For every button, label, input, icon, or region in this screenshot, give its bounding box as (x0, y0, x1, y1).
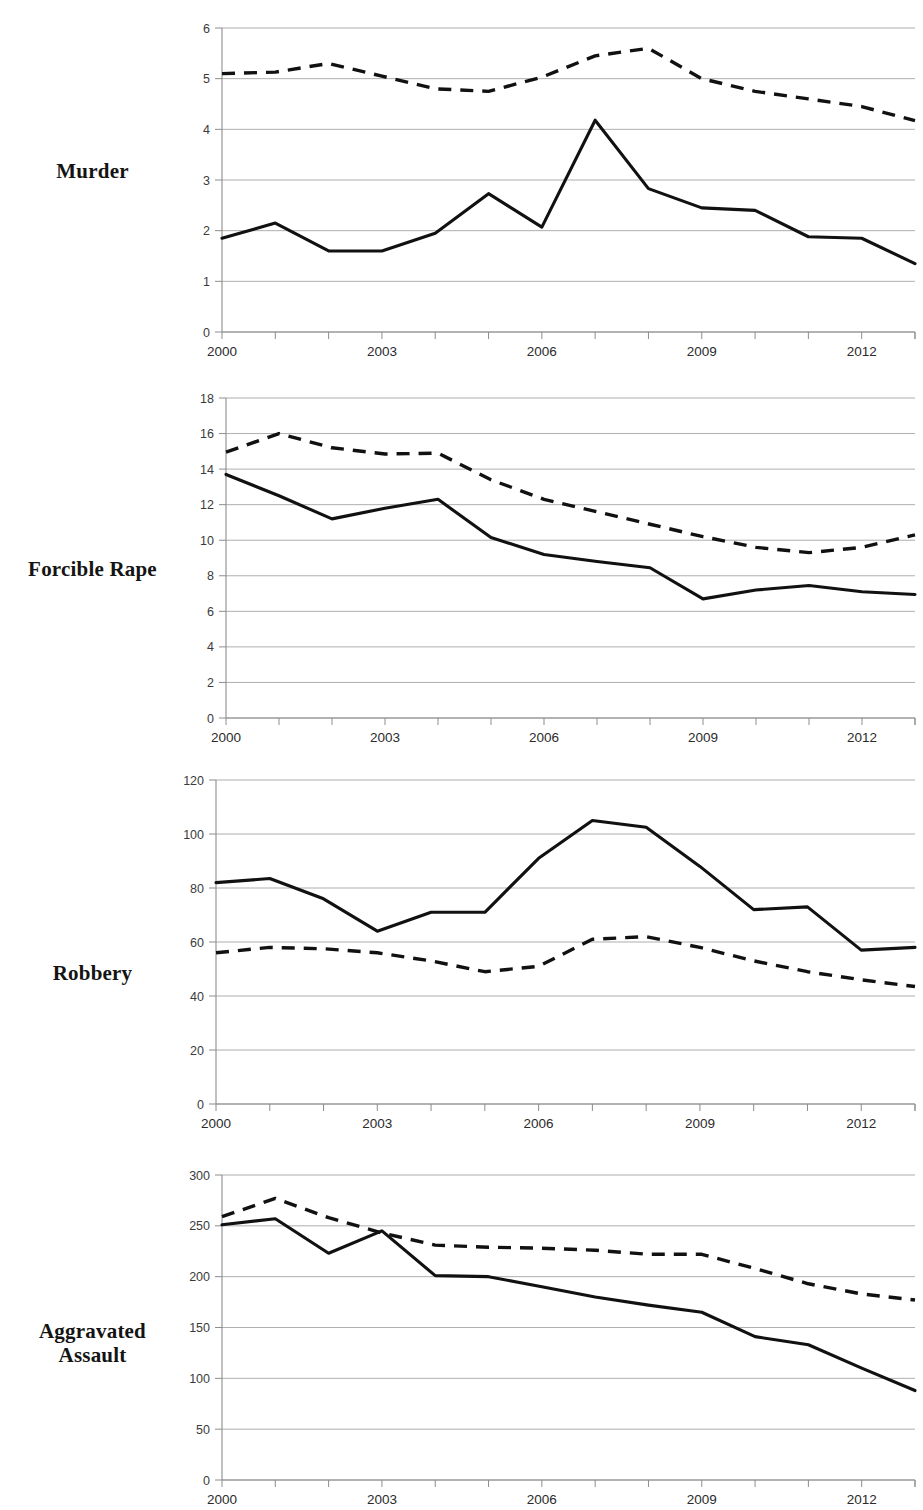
y-axis-tick-label: 120 (183, 774, 204, 788)
y-axis-tick-label: 300 (189, 1169, 210, 1183)
y-axis-tick-label: 3 (203, 174, 210, 188)
series-dashed-line (226, 434, 915, 553)
y-axis-tick-label: 6 (203, 22, 210, 36)
x-axis-tick-label: 2009 (688, 730, 718, 745)
panel-aggravated-assault: Aggravated Assault 050100150200250300200… (0, 1155, 923, 1510)
y-axis-tick-label: 1 (203, 275, 210, 289)
y-axis-tick-label: 200 (189, 1270, 210, 1284)
y-axis-tick-label: 0 (203, 326, 210, 340)
y-axis-tick-label: 0 (197, 1098, 204, 1112)
y-axis-tick-label: 2 (203, 224, 210, 238)
x-axis-tick-label: 2006 (524, 1116, 554, 1131)
x-axis-tick-label: 2012 (846, 1116, 876, 1131)
y-axis-tick-label: 4 (207, 640, 214, 654)
series-dashed-line (222, 48, 915, 120)
x-axis-tick-label: 2003 (370, 730, 400, 745)
x-axis-tick-label: 2012 (847, 1492, 877, 1507)
x-axis-tick-label: 2003 (362, 1116, 392, 1131)
x-axis-tick-label: 2000 (207, 1492, 237, 1507)
y-axis-tick-label: 250 (189, 1219, 210, 1233)
series-dashed-line (222, 1198, 915, 1300)
panel-murder: Murder 012345620002003200620092012 (0, 0, 923, 372)
crime-trend-chart-page: Murder 012345620002003200620092012 Forci… (0, 0, 923, 1510)
x-axis-tick-label: 2012 (847, 730, 877, 745)
y-axis-tick-label: 150 (189, 1321, 210, 1335)
x-axis-tick-label: 2009 (687, 1492, 717, 1507)
x-axis-tick-label: 2000 (207, 344, 237, 359)
y-axis-tick-label: 6 (207, 605, 214, 619)
y-axis-tick-label: 60 (190, 936, 204, 950)
x-axis-tick-label: 2003 (367, 344, 397, 359)
y-axis-tick-label: 0 (203, 1474, 210, 1488)
y-axis-tick-label: 2 (207, 676, 214, 690)
x-axis-tick-label: 2009 (687, 344, 717, 359)
y-axis-tick-label: 14 (200, 463, 214, 477)
y-axis-tick-label: 100 (183, 828, 204, 842)
y-axis-tick-label: 8 (207, 569, 214, 583)
series-solid-line (226, 474, 915, 598)
x-axis-tick-label: 2006 (527, 1492, 557, 1507)
y-axis-tick-label: 4 (203, 123, 210, 137)
series-solid-line (222, 1219, 915, 1391)
y-axis-tick-label: 0 (207, 712, 214, 726)
chart-forcible-rape: 02468101214161820002003200620092012 (0, 380, 923, 770)
series-solid-line (216, 821, 915, 951)
series-solid-line (222, 120, 915, 263)
x-axis-tick-label: 2000 (211, 730, 241, 745)
y-axis-tick-label: 50 (196, 1423, 210, 1437)
y-axis-tick-label: 5 (203, 72, 210, 86)
x-axis-tick-label: 2006 (529, 730, 559, 745)
x-axis-tick-label: 2003 (367, 1492, 397, 1507)
x-axis-tick-label: 2000 (201, 1116, 231, 1131)
chart-robbery: 02040608010012020002003200620092012 (0, 765, 923, 1150)
y-axis-tick-label: 80 (190, 882, 204, 896)
y-axis-tick-label: 40 (190, 990, 204, 1004)
chart-murder: 012345620002003200620092012 (0, 0, 923, 372)
series-dashed-line (216, 937, 915, 987)
x-axis-tick-label: 2012 (847, 344, 877, 359)
panel-robbery: Robbery 02040608010012020002003200620092… (0, 765, 923, 1150)
panel-forcible-rape: Forcible Rape 02468101214161820002003200… (0, 380, 923, 770)
chart-aggravated-assault: 05010015020025030020002003200620092012 (0, 1155, 923, 1510)
y-axis-tick-label: 16 (200, 427, 214, 441)
x-axis-tick-label: 2009 (685, 1116, 715, 1131)
x-axis-tick-label: 2006 (527, 344, 557, 359)
y-axis-tick-label: 20 (190, 1044, 204, 1058)
y-axis-tick-label: 18 (200, 392, 214, 406)
y-axis-tick-label: 100 (189, 1372, 210, 1386)
y-axis-tick-label: 12 (200, 498, 214, 512)
y-axis-tick-label: 10 (200, 534, 214, 548)
